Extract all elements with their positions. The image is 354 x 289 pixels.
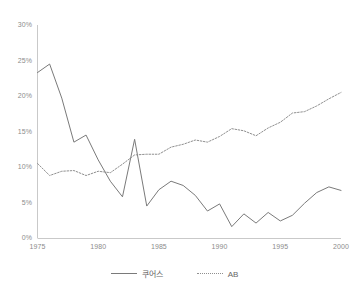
y-tick-label: 5% bbox=[8, 199, 32, 207]
legend-item-ab[interactable]: AB bbox=[197, 270, 239, 279]
x-tick-label: 2000 bbox=[326, 243, 354, 251]
legend-swatch-dotted-icon bbox=[197, 273, 223, 275]
x-tick-label: 1975 bbox=[23, 243, 53, 251]
series-line-coors bbox=[38, 64, 342, 227]
legend-item-coors[interactable]: 쿠어스 bbox=[111, 270, 163, 279]
x-tick-label: 1995 bbox=[265, 243, 295, 251]
y-tick-label: 15% bbox=[8, 128, 32, 136]
x-tick-label: 1980 bbox=[83, 243, 113, 251]
y-tick-label: 30% bbox=[8, 21, 32, 29]
series-line-ab bbox=[38, 92, 342, 175]
legend-label-coors: 쿠어스 bbox=[142, 270, 163, 279]
x-tick-label: 1985 bbox=[144, 243, 174, 251]
legend-swatch-solid-icon bbox=[111, 273, 137, 275]
y-tick-label: 0% bbox=[8, 234, 32, 242]
y-tick-label: 20% bbox=[8, 92, 32, 100]
y-tick-label: 25% bbox=[8, 57, 32, 65]
y-tick-label: 10% bbox=[8, 163, 32, 171]
legend-label-ab: AB bbox=[228, 270, 239, 279]
x-tick-label: 1990 bbox=[205, 243, 235, 251]
chart-legend: 쿠어스 AB bbox=[0, 264, 349, 284]
